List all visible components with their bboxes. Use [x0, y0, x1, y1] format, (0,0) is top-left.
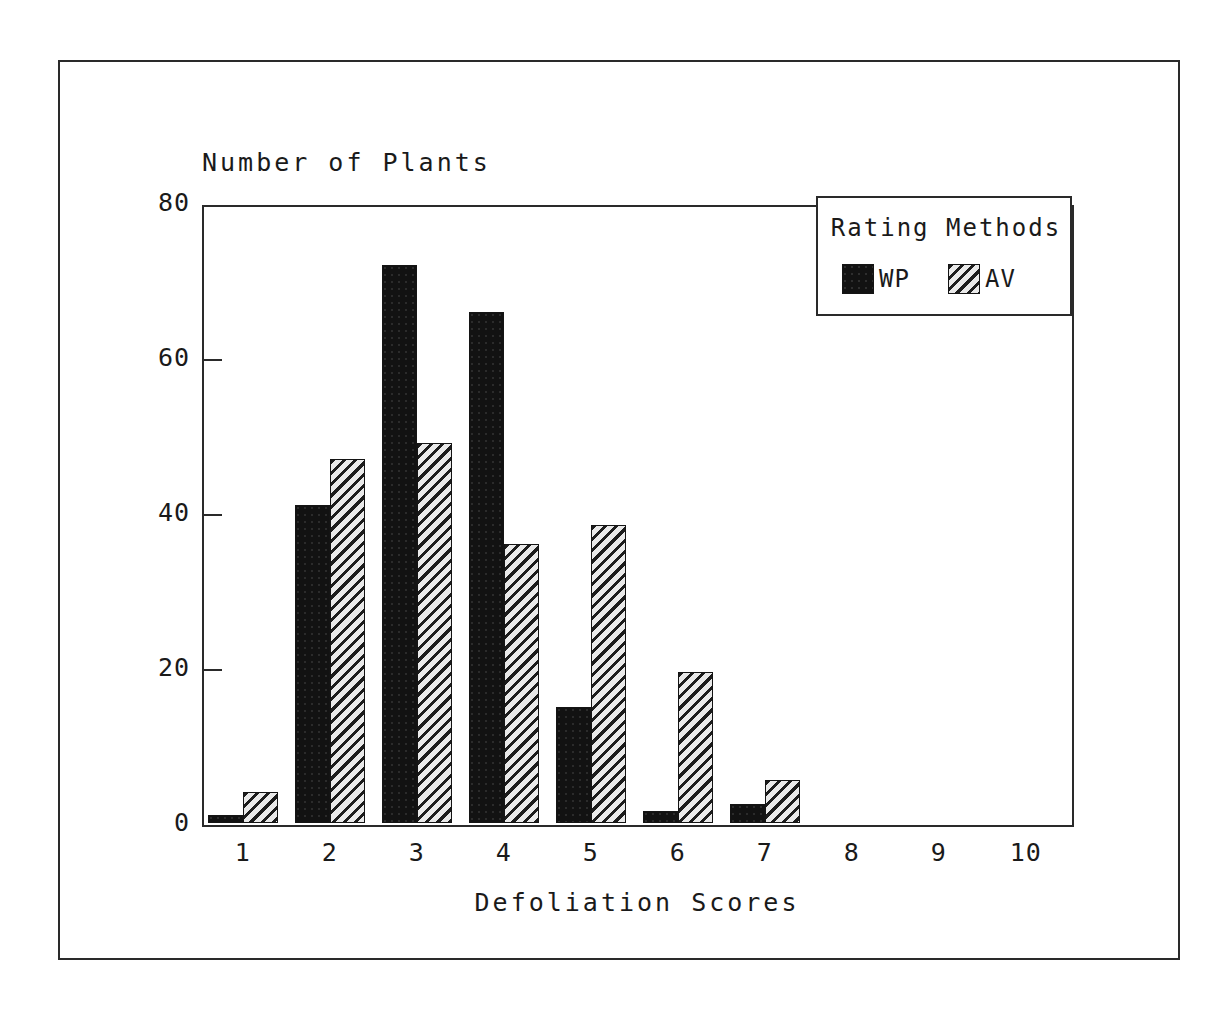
bar-av-3 — [417, 443, 452, 823]
legend-title: Rating Methods — [818, 214, 1074, 242]
x-tick-label: 9 — [899, 838, 979, 867]
legend-entry-wp: WP — [842, 264, 910, 294]
x-axis-title: Defoliation Scores — [202, 888, 1072, 917]
y-tick-mark — [202, 669, 222, 671]
y-tick-label: 0 — [70, 808, 190, 837]
x-tick-label: 7 — [725, 838, 805, 867]
x-tick-label: 2 — [290, 838, 370, 867]
y-tick-label: 40 — [70, 498, 190, 527]
bar-wp-1 — [208, 815, 243, 823]
y-tick-mark — [202, 514, 222, 516]
x-tick-label: 4 — [464, 838, 544, 867]
x-tick-label: 1 — [203, 838, 283, 867]
legend-swatch-wp — [842, 264, 874, 294]
bar-av-4 — [504, 544, 539, 823]
y-axis-title: Number of Plants — [202, 148, 491, 177]
y-tick-label: 20 — [70, 653, 190, 682]
axis-right-spine — [1072, 205, 1074, 827]
bar-wp-7 — [730, 804, 765, 823]
figure: Number of Plants Defoliation Scores 0204… — [0, 0, 1232, 1021]
bar-av-1 — [243, 792, 278, 823]
y-tick-mark — [202, 359, 222, 361]
legend-entry-av: AV — [948, 264, 1016, 294]
x-tick-label: 6 — [638, 838, 718, 867]
axis-x-spine — [202, 825, 1074, 827]
bar-wp-5 — [556, 707, 591, 823]
x-tick-label: 5 — [551, 838, 631, 867]
bar-av-6 — [678, 672, 713, 823]
legend-label-av: AV — [985, 265, 1016, 293]
y-tick-label: 60 — [70, 343, 190, 372]
bar-wp-4 — [469, 312, 504, 824]
y-tick-label: 80 — [70, 188, 190, 217]
bar-av-7 — [765, 780, 800, 823]
bar-av-5 — [591, 525, 626, 823]
legend: Rating Methods WPAV — [816, 196, 1072, 316]
legend-swatch-av — [948, 264, 980, 294]
bar-wp-6 — [643, 811, 678, 823]
legend-label-wp: WP — [879, 265, 910, 293]
x-tick-label: 8 — [812, 838, 892, 867]
x-tick-label: 10 — [986, 838, 1066, 867]
axis-y-spine — [202, 205, 204, 827]
bar-av-2 — [330, 459, 365, 823]
bar-wp-2 — [295, 505, 330, 823]
x-tick-label: 3 — [377, 838, 457, 867]
bar-wp-3 — [382, 265, 417, 823]
